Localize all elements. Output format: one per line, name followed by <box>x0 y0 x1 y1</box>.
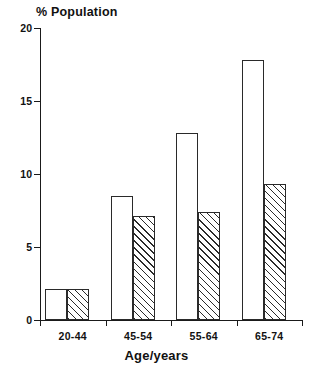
x-tick-label: 55-64 <box>190 330 218 342</box>
x-tick-mark <box>171 320 172 326</box>
bar-chart: % Population 05101520 20-4445-5455-6465-… <box>0 0 313 373</box>
y-tick-label: 15 <box>6 95 32 107</box>
x-tick-mark <box>106 320 107 326</box>
bar-65-74-open-bar <box>242 60 264 320</box>
bar-45-54-hatched-bar <box>133 216 155 320</box>
bar-55-64-hatched-bar <box>198 212 220 320</box>
bar-20-44-hatched-bar <box>67 289 89 320</box>
bar-45-54-open-bar <box>111 196 133 320</box>
y-tick-mark <box>34 101 40 102</box>
y-tick-label: 0 <box>6 314 32 326</box>
y-tick-mark <box>34 247 40 248</box>
x-tick-label: 65-74 <box>255 330 283 342</box>
bar-20-44-open-bar <box>45 289 67 320</box>
y-tick-mark <box>34 174 40 175</box>
y-tick-mark <box>34 28 40 29</box>
y-tick-label: 5 <box>6 241 32 253</box>
x-tick-label: 45-54 <box>124 330 152 342</box>
y-axis-line <box>40 28 41 320</box>
bar-65-74-hatched-bar <box>264 184 286 320</box>
x-axis-title: Age/years <box>0 348 313 363</box>
x-tick-label: 20-44 <box>59 330 87 342</box>
y-axis-title: % Population <box>36 5 118 19</box>
x-tick-mark <box>237 320 238 326</box>
y-tick-label: 10 <box>6 168 32 180</box>
x-tick-mark <box>40 320 41 326</box>
x-tick-mark <box>302 320 303 326</box>
bar-55-64-open-bar <box>176 133 198 320</box>
y-tick-label: 20 <box>6 22 32 34</box>
